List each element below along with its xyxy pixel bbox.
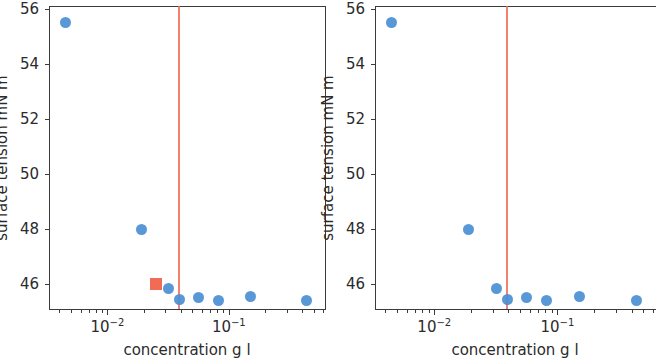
x-tick-minor: [181, 310, 182, 313]
x-tick-minor: [538, 310, 539, 313]
x-tick-minor: [287, 310, 288, 313]
data-point: [136, 224, 147, 235]
y-tick: [45, 9, 49, 10]
x-tick-major: [107, 310, 108, 315]
chart-panel-left: 46485052545610−210−1concentration g lsur…: [0, 0, 330, 362]
x-tick-minor: [471, 310, 472, 313]
y-tick-label: 48: [7, 220, 39, 238]
x-tick-label: 10−2: [91, 318, 125, 336]
x-tick-minor: [217, 310, 218, 313]
y-tick: [371, 119, 375, 120]
y-tick-label: 52: [7, 110, 39, 128]
data-point: [60, 17, 71, 28]
axis-spine-left: [375, 6, 376, 310]
y-tick-label: 56: [333, 0, 365, 18]
x-tick-minor: [397, 310, 398, 313]
x-tick-minor: [96, 310, 97, 313]
x-tick-minor: [407, 310, 408, 313]
axis-spine-bottom: [375, 309, 656, 310]
x-tick-minor: [302, 310, 303, 313]
x-tick-minor: [594, 310, 595, 313]
data-point: [463, 224, 474, 235]
x-tick-minor: [653, 310, 654, 313]
x-tick-minor: [192, 310, 193, 313]
y-tick-label: 56: [7, 0, 39, 18]
data-point-square: [150, 278, 162, 290]
y-tick-label: 46: [333, 275, 365, 293]
y-tick: [45, 64, 49, 65]
data-point: [245, 291, 256, 302]
data-point: [521, 292, 532, 303]
x-tick-label: 10−1: [212, 318, 246, 336]
chart-panel-right: 46485052545610−210−1concentration g lsur…: [330, 0, 651, 362]
x-tick-minor: [210, 310, 211, 313]
data-point: [193, 292, 204, 303]
y-tick: [45, 284, 49, 285]
y-tick-label: 52: [333, 110, 365, 128]
y-tick-label: 54: [333, 55, 365, 73]
y-tick-label: 50: [333, 165, 365, 183]
x-tick-minor: [71, 310, 72, 313]
axis-spine-bottom: [49, 309, 326, 310]
y-tick-label: 54: [7, 55, 39, 73]
y-tick: [371, 229, 375, 230]
x-tick-minor: [616, 310, 617, 313]
x-tick-minor: [202, 310, 203, 313]
cmc-vertical-line: [506, 6, 508, 309]
y-tick: [371, 64, 375, 65]
y-tick: [45, 119, 49, 120]
y-tick-label: 50: [7, 165, 39, 183]
x-tick-minor: [632, 310, 633, 313]
x-tick-minor: [59, 310, 60, 313]
x-tick-major: [229, 310, 230, 315]
x-axis-label: concentration g l: [451, 341, 578, 359]
y-tick: [371, 284, 375, 285]
y-tick: [45, 174, 49, 175]
x-tick-label: 10−1: [541, 318, 575, 336]
x-tick-minor: [81, 310, 82, 313]
y-axis-label: surface tension mN m: [0, 75, 11, 240]
x-tick-minor: [314, 310, 315, 313]
x-tick-minor: [508, 310, 509, 313]
x-tick-minor: [552, 310, 553, 313]
data-point: [163, 283, 174, 294]
x-axis-label: concentration g l: [123, 341, 250, 359]
axis-spine-top: [375, 6, 656, 7]
data-point: [174, 294, 185, 305]
x-tick-minor: [422, 310, 423, 313]
x-tick-minor: [385, 310, 386, 313]
data-point: [386, 17, 397, 28]
x-tick-minor: [530, 310, 531, 313]
x-tick-minor: [144, 310, 145, 313]
x-tick-minor: [429, 310, 430, 313]
axis-spine-left: [49, 6, 50, 310]
data-point: [213, 295, 224, 306]
data-point: [491, 283, 502, 294]
x-tick-minor: [520, 310, 521, 313]
y-tick: [371, 9, 375, 10]
x-tick-minor: [643, 310, 644, 313]
x-tick-major: [557, 310, 558, 315]
y-tick-label: 48: [333, 220, 365, 238]
x-tick-minor: [545, 310, 546, 313]
x-tick-major: [434, 310, 435, 315]
axis-spine-top: [49, 6, 326, 7]
x-tick-minor: [265, 310, 266, 313]
x-tick-label: 10−2: [417, 318, 451, 336]
x-tick-minor: [415, 310, 416, 313]
data-point: [541, 295, 552, 306]
data-point: [631, 295, 642, 306]
data-point: [301, 295, 312, 306]
y-tick-label: 46: [7, 275, 39, 293]
x-tick-minor: [223, 310, 224, 313]
x-tick-minor: [102, 310, 103, 313]
x-tick-minor: [89, 310, 90, 313]
data-point: [574, 291, 585, 302]
y-axis-label: surface tension mN m: [319, 75, 337, 240]
y-tick: [371, 174, 375, 175]
cmc-vertical-line: [178, 6, 180, 309]
x-tick-minor: [493, 310, 494, 313]
data-point: [502, 294, 513, 305]
x-tick-minor: [165, 310, 166, 313]
y-tick: [45, 229, 49, 230]
